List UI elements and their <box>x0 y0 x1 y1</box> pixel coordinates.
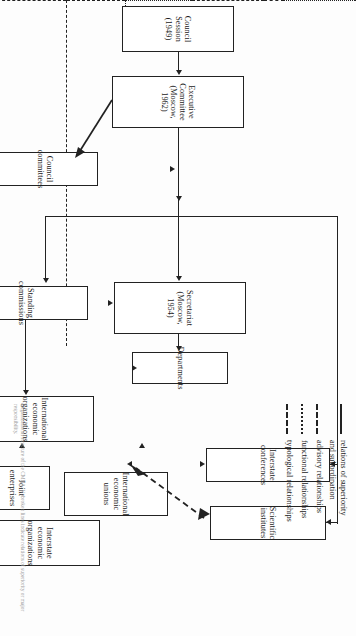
edge-secretariat-to-institutes <box>124 456 210 530</box>
legend-item-dashed: advisory relationships <box>309 404 324 630</box>
arrowhead-standing-to-intl-org <box>23 390 29 395</box>
arrowhead-departments-dotted <box>132 365 137 371</box>
node-council-session: Council Session (1949) <box>122 6 234 52</box>
edge-secretariat-to-departments <box>178 334 179 346</box>
bus-to-standing-commissions <box>45 216 46 278</box>
legend-item-solid: relations of superiority and subordinati… <box>324 404 348 630</box>
figure-canvas: Council Session (1949) Executive Committ… <box>0 0 356 636</box>
edge-secretariat-to-conferences <box>192 0 264 1</box>
legend-item-dotted: functional relationships <box>294 404 309 630</box>
bus-vertical-left <box>46 216 338 217</box>
arrowhead-exec-to-secretariat <box>176 276 182 281</box>
edge-standing-to-intl-org <box>25 320 26 390</box>
node-executive-committee: Executive Committee (Moscow, 1962) <box>112 76 244 128</box>
legend-item-dashdot: typological relationships <box>279 404 294 630</box>
legend: relations of superiority and subordinati… <box>279 404 348 630</box>
edge-dashed-bottom-riser <box>0 0 66 1</box>
edge-standing-down-dashed <box>67 0 125 1</box>
arrowhead-session-to-exec <box>176 70 182 75</box>
legend-swatch-solid-line <box>340 404 342 434</box>
arrowhead-council-committees-dotted <box>170 166 175 172</box>
arrowhead-secretariat-to-departments <box>176 346 182 351</box>
legend-swatch-dashdot-line <box>286 404 288 434</box>
edge-session-to-exec <box>178 52 179 70</box>
legend-label-dotted: functional relationships <box>298 440 309 518</box>
legend-label-solid: relations of superiority and subordinati… <box>327 440 348 516</box>
arrowhead-to-standing-commissions <box>43 278 49 283</box>
node-standing-commissions: Standing commissions <box>0 286 88 320</box>
edge-departments-dotted <box>126 0 192 1</box>
legend-swatch-dashed-line <box>316 404 318 434</box>
edge-exec-to-secretariat <box>178 128 179 276</box>
node-secretariat: Secretariat (Moscow, 1954) <box>114 282 246 334</box>
edge-standing-to-secretariat <box>264 0 284 1</box>
legend-swatch-dotted-line <box>301 404 303 434</box>
figure-caption: Organizational structure of the CMEA. Un… <box>12 404 26 632</box>
legend-label-dashed: advisory relationships <box>313 440 324 513</box>
edge-council-committees-dotted <box>284 0 356 1</box>
node-departments: Departments <box>132 352 228 384</box>
arrowhead-standing-to-secretariat <box>108 300 113 306</box>
legend-label-dashdot: typological relationships <box>283 440 294 522</box>
rotated-diagram-layer: Council Session (1949) Executive Committ… <box>0 0 356 636</box>
arrowhead-spine-mid <box>176 196 182 201</box>
edge-exec-to-council-committees <box>70 96 116 176</box>
arrowhead-dashdot-to-unions <box>139 443 145 448</box>
